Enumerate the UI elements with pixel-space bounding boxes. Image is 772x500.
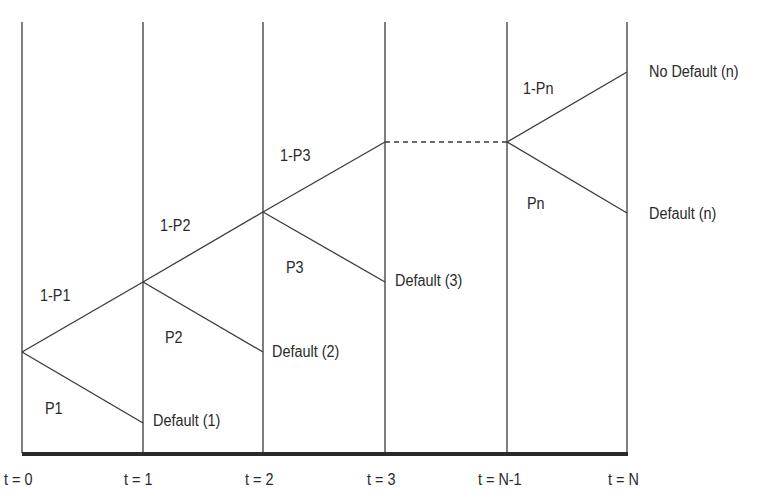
- time-label-1: t = 1: [124, 471, 152, 489]
- default-branches: [22, 142, 627, 423]
- outcome-default-2: Default (2): [272, 343, 339, 361]
- time-label-n-minus-1: t = N-1: [478, 471, 522, 489]
- label-1-p1: 1-P1: [40, 287, 70, 305]
- time-label-2: t = 2: [245, 471, 273, 489]
- label-1-p3: 1-P3: [280, 147, 310, 165]
- label-p3: P3: [286, 259, 304, 277]
- label-p2: P2: [165, 329, 183, 347]
- outcome-default-1: Default (1): [153, 412, 220, 430]
- time-label-3: t = 3: [367, 471, 395, 489]
- outcome-no-default-n: No Default (n): [649, 63, 739, 81]
- label-1-p2: 1-P2: [160, 217, 190, 235]
- time-label-0: t = 0: [4, 471, 32, 489]
- outcome-default-n: Default (n): [649, 205, 716, 223]
- outcome-default-3: Default (3): [395, 272, 462, 290]
- label-1-pn: 1-Pn: [523, 80, 553, 98]
- label-p1: P1: [45, 400, 63, 418]
- label-pn: Pn: [527, 195, 545, 213]
- time-label-n: t = N: [608, 471, 639, 489]
